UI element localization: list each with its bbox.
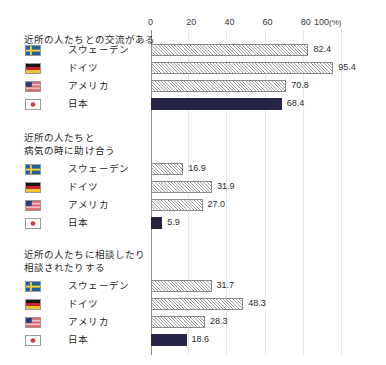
usa-flag-icon xyxy=(25,81,41,92)
bar-value-label: 82.4 xyxy=(313,43,331,56)
sweden-flag-icon xyxy=(25,164,41,175)
bar-value-label: 95.4 xyxy=(338,61,356,74)
country-label: スウェーデン xyxy=(68,279,129,292)
country-label: アメリカ xyxy=(68,79,109,92)
chart-row: アメリカ70.8 xyxy=(0,80,386,93)
bar xyxy=(151,181,212,193)
bar-value-label: 5.9 xyxy=(167,216,180,229)
x-tick-0: 0 xyxy=(148,17,153,28)
chart-row: 日本18.6 xyxy=(0,334,386,347)
bar xyxy=(151,298,243,310)
bar xyxy=(151,44,308,56)
country-label: アメリカ xyxy=(68,198,109,211)
chart-row: スウェーデン16.9 xyxy=(0,163,386,176)
chart-row: スウェーデン31.7 xyxy=(0,280,386,293)
sweden-flag-icon xyxy=(25,45,41,56)
bar-value-label: 28.3 xyxy=(210,315,228,328)
usa-flag-icon xyxy=(25,200,41,211)
country-label: 日本 xyxy=(68,97,88,110)
bar xyxy=(151,316,205,328)
germany-flag-icon xyxy=(25,182,41,193)
bar-highlight xyxy=(151,217,162,229)
chart-row: ドイツ48.3 xyxy=(0,298,386,311)
japan-flag-icon xyxy=(25,218,41,229)
bar-chart: 020406080100(%) 近所の人たちとの交流があるスウェーデン82.4ド… xyxy=(0,0,386,365)
chart-row: スウェーデン82.4 xyxy=(0,44,386,57)
country-label: 日本 xyxy=(68,216,88,229)
chart-row: ドイツ31.9 xyxy=(0,181,386,194)
germany-flag-icon xyxy=(25,63,41,74)
usa-flag-icon xyxy=(25,317,41,328)
bar-value-label: 18.6 xyxy=(192,333,210,346)
x-tick-80: 80 xyxy=(301,17,311,28)
country-label: アメリカ xyxy=(68,315,109,328)
country-label: スウェーデン xyxy=(68,43,129,56)
country-label: ドイツ xyxy=(68,180,99,193)
x-axis-tick-labels: 020406080100(%) xyxy=(0,17,386,30)
bar-value-label: 27.0 xyxy=(208,198,226,211)
chart-row: 日本68.4 xyxy=(0,98,386,111)
chart-row: アメリカ28.3 xyxy=(0,316,386,329)
japan-flag-icon xyxy=(25,99,41,110)
country-label: ドイツ xyxy=(68,61,99,74)
x-tick-60: 60 xyxy=(263,17,273,28)
bar-highlight xyxy=(151,334,187,346)
bar xyxy=(151,280,212,292)
bar-value-label: 31.9 xyxy=(217,180,235,193)
panel-title: 近所の人たちに相談したり 相談されたりする xyxy=(24,249,145,274)
bar xyxy=(151,199,203,211)
bar-value-label: 68.4 xyxy=(287,97,305,110)
bar xyxy=(151,62,333,74)
panel-title: 近所の人たちと 病気の時に助け合う xyxy=(24,132,115,157)
country-label: 日本 xyxy=(68,333,88,346)
country-label: ドイツ xyxy=(68,297,99,310)
sweden-flag-icon xyxy=(25,281,41,292)
x-tick-20: 20 xyxy=(186,17,196,28)
chart-row: ドイツ95.4 xyxy=(0,62,386,75)
bar-value-label: 48.3 xyxy=(248,297,266,310)
x-tick-40: 40 xyxy=(224,17,234,28)
germany-flag-icon xyxy=(25,299,41,310)
bar-value-label: 70.8 xyxy=(291,79,309,92)
chart-row: アメリカ27.0 xyxy=(0,199,386,212)
bar xyxy=(151,80,286,92)
bar-value-label: 16.9 xyxy=(188,162,206,175)
bar-highlight xyxy=(151,98,282,110)
japan-flag-icon xyxy=(25,335,41,346)
chart-row: 日本5.9 xyxy=(0,217,386,230)
country-label: スウェーデン xyxy=(68,162,129,175)
x-tick-100: 100(%) xyxy=(314,17,341,28)
bar-value-label: 31.7 xyxy=(217,279,235,292)
bar xyxy=(151,163,183,175)
